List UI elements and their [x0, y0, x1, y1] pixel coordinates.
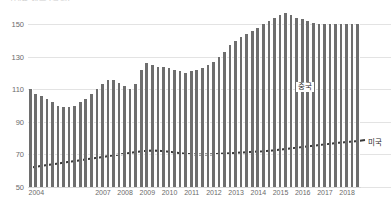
bar: [84, 99, 88, 187]
series-label-china: 중국: [296, 82, 314, 92]
bar: [96, 89, 100, 187]
bar: [112, 80, 116, 187]
bar: [129, 89, 133, 187]
bar: [184, 73, 188, 187]
x-axis-tick-label: 2010: [162, 189, 178, 196]
bar: [251, 31, 255, 187]
bar: [351, 24, 355, 187]
bar: [90, 94, 94, 187]
bar: [240, 37, 244, 187]
bar: [356, 24, 360, 187]
bar: [101, 84, 105, 187]
bar: [290, 15, 294, 187]
bar: [140, 70, 144, 187]
bar: [268, 21, 272, 187]
x-axis-tick-label: 2014: [251, 189, 267, 196]
plot-area: [28, 8, 361, 187]
series-label-usa: 미국: [366, 138, 384, 148]
y-axis-tick-label: 50: [0, 183, 24, 192]
bar: [73, 106, 77, 187]
bar: [62, 107, 66, 187]
bar: [162, 67, 166, 187]
bar: [123, 86, 127, 187]
axis-baseline: [28, 187, 361, 188]
x-axis-tick-label: 2013: [228, 189, 244, 196]
bar: [29, 89, 33, 187]
y-axis-tick-label: 150: [0, 20, 24, 29]
bar: [301, 19, 305, 187]
y-axis-tick-label: 130: [0, 52, 24, 61]
x-axis-tick-label: 2011: [184, 189, 199, 196]
bar: [273, 18, 277, 187]
x-axis-tick-label: 2017: [317, 189, 333, 196]
bar: [134, 84, 138, 187]
x-axis-tick-label: 2009: [140, 189, 156, 196]
bar: [234, 41, 238, 187]
bar: [168, 68, 172, 187]
bar: [190, 71, 194, 187]
bar: [195, 70, 199, 187]
bar: [279, 15, 283, 187]
bar: [57, 106, 61, 187]
bar: [223, 52, 227, 187]
bar: [212, 62, 216, 187]
y-axis-tick-label: 70: [0, 150, 24, 159]
bar: [201, 68, 205, 187]
bar: [345, 24, 349, 187]
bar: [218, 57, 222, 187]
bar: [323, 24, 327, 187]
bar: [40, 96, 44, 187]
chart-title-clipped: 그래프 제목 (잘림): [6, 0, 70, 1]
chart-container: 그래프 제목 (잘림) 150130110907050 200420072008…: [0, 0, 391, 200]
x-axis-tick-label: 2012: [206, 189, 222, 196]
bar: [173, 70, 177, 187]
bar: [79, 102, 83, 187]
x-axis-tick-label: 2018: [339, 189, 355, 196]
bar: [262, 24, 266, 187]
x-axis-tick-label: 2016: [295, 189, 311, 196]
bar: [245, 34, 249, 187]
bar: [284, 13, 288, 187]
bar: [229, 45, 233, 187]
bar: [107, 80, 111, 187]
bar: [329, 24, 333, 187]
bar: [46, 99, 50, 187]
bar: [312, 23, 316, 187]
bar: [157, 67, 161, 187]
bar: [306, 21, 310, 187]
bar: [340, 24, 344, 187]
bar: [68, 107, 72, 187]
bar: [118, 83, 122, 187]
bar: [207, 65, 211, 187]
bar: [151, 65, 155, 187]
x-axis-tick-label: 2007: [95, 189, 111, 196]
bar: [179, 71, 183, 187]
bar: [334, 24, 338, 187]
bar: [256, 28, 260, 187]
bar: [145, 63, 149, 187]
bar: [295, 18, 299, 187]
bar: [34, 94, 38, 187]
bar: [51, 102, 55, 187]
y-axis-tick-label: 110: [0, 85, 24, 94]
y-axis-tick-label: 90: [0, 117, 24, 126]
x-axis-tick-label: 2008: [117, 189, 133, 196]
x-axis-tick-label: 2015: [273, 189, 289, 196]
x-axis-tick-label: 2004: [29, 189, 45, 196]
bar: [318, 24, 322, 187]
